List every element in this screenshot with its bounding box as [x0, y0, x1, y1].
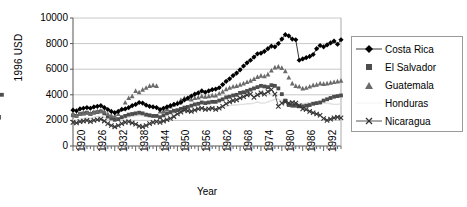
legend-label-nicaragua: Nicaragua [383, 116, 431, 127]
chart-legend: Costa Rica El Salvador Guatemala Hondura… [351, 36, 463, 132]
legend-marker-diamond-icon [355, 42, 383, 56]
legend-item-guatemala[interactable]: Guatemala [352, 76, 462, 94]
legend-marker-blank-icon [355, 96, 383, 110]
legend-item-el-salvador[interactable]: El Salvador [352, 58, 462, 76]
legend-label-el-salvador: El Salvador [383, 62, 436, 73]
x-axis-title: Year [73, 186, 341, 197]
legend-label-costa-rica: Costa Rica [383, 44, 434, 55]
legend-marker-triangle-icon [355, 78, 383, 92]
gdp-per-capita-line-chart: 1996 USD 0200040006000800010000 19201926… [0, 0, 467, 207]
legend-label-honduras: Honduras [383, 98, 428, 109]
legend-item-costa-rica[interactable]: Costa Rica [352, 40, 462, 58]
legend-label-guatemala: Guatemala [383, 80, 434, 91]
legend-marker-square-icon [355, 60, 383, 74]
legend-marker-x-icon [355, 114, 383, 128]
legend-item-honduras[interactable]: Honduras [352, 94, 462, 112]
legend-item-nicaragua[interactable]: Nicaragua [352, 112, 462, 130]
